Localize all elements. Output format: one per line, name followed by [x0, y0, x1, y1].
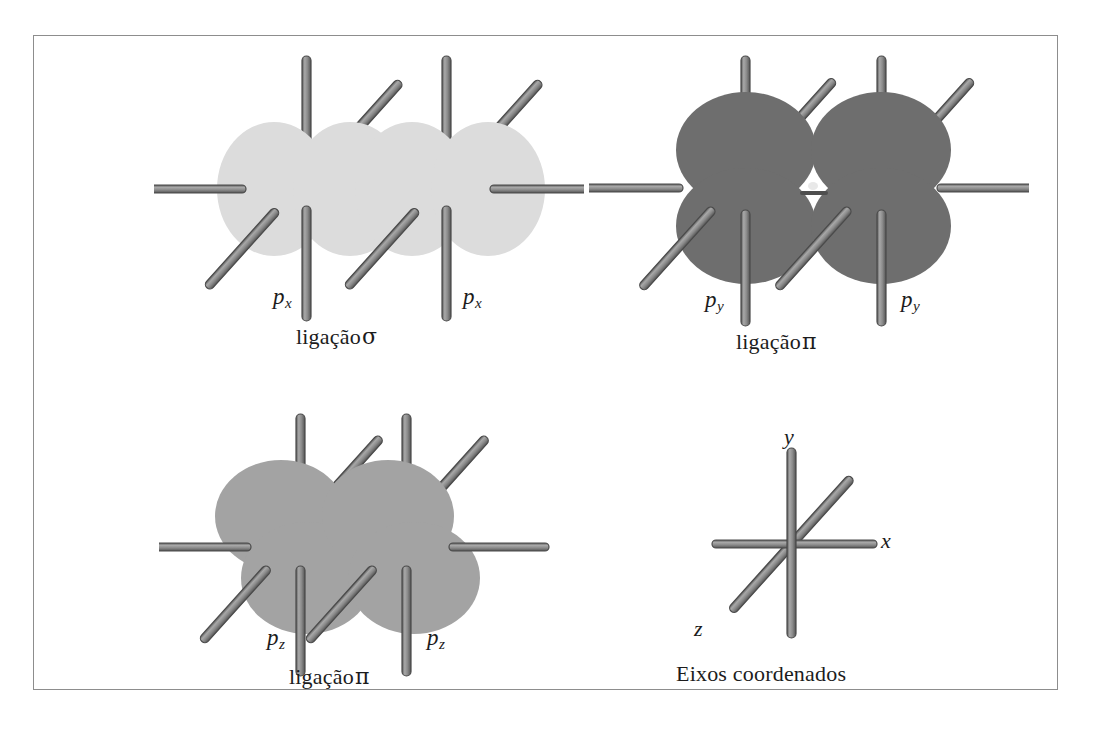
center-highlight-icon	[800, 182, 828, 195]
axis-label-x: x	[881, 528, 891, 554]
orbital-label-py-left: py	[705, 287, 724, 315]
caption-pi-bond-py: ligaçãoπ	[736, 329, 817, 355]
pi-pz-diagram	[159, 406, 589, 696]
orbital-label-pz-left: pz	[267, 625, 285, 653]
figure-frame: px px ligaçãoσ	[33, 35, 1058, 690]
orbital-label-py-right: py	[901, 287, 920, 315]
y-axis-rod	[787, 448, 796, 638]
caption-coordinate-axes: Eixos coordenados	[676, 661, 847, 687]
axis-label-y: y	[784, 424, 794, 450]
pi-py-diagram	[589, 46, 1029, 366]
orbital-label-px-right: px	[463, 284, 482, 312]
coordinate-axes-diagram	[634, 416, 1004, 696]
panel-sigma-px: px px ligaçãoσ	[154, 46, 584, 346]
panel-pi-py: py py ligaçãoπ	[589, 46, 1029, 366]
panel-pi-pz: pz pz ligaçãoπ	[159, 406, 589, 696]
panel-coordinate-axes: y x z Eixos coordenados	[634, 416, 1004, 696]
axis-label-z: z	[694, 616, 703, 642]
pi-pz-orbital-lobes	[215, 460, 480, 634]
caption-pi-bond-pz: ligaçãoπ	[289, 664, 370, 690]
orbital-label-pz-right: pz	[427, 625, 445, 653]
sigma-px-diagram	[154, 46, 584, 346]
caption-sigma-bond: ligaçãoσ	[296, 324, 377, 350]
orbital-label-px-left: px	[273, 284, 292, 312]
